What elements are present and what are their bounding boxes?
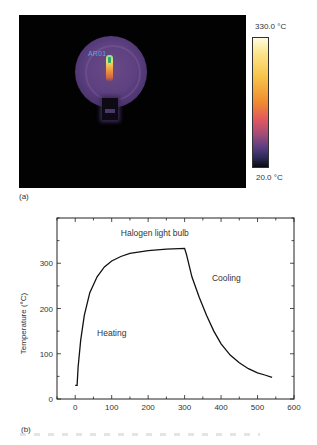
y-tick-label: 200 — [40, 305, 54, 314]
colorbar-max-label: 330.0 °C — [255, 22, 286, 31]
y-tick-label: 0 — [49, 395, 54, 404]
bulb-base-band — [105, 109, 115, 113]
cooling-annotation: Cooling — [212, 273, 241, 283]
chart-title: Halogen light bulb — [121, 228, 189, 238]
x-tick-label: 600 — [287, 403, 301, 410]
x-tick-label: 0 — [73, 403, 78, 410]
x-tick-label: 300 — [178, 403, 192, 410]
roi-label: AR01 — [88, 50, 106, 57]
x-tick-label: 200 — [141, 403, 155, 410]
heating-annotation: Heating — [97, 328, 127, 338]
y-tick-label: 100 — [40, 350, 54, 359]
y-axis-title: Temperature (°C) — [19, 292, 28, 354]
filament-core — [108, 57, 111, 63]
x-tick-label: 500 — [251, 403, 265, 410]
clipped-caption — [20, 433, 260, 436]
colorbar — [252, 37, 269, 168]
thermal-image: AR01 — [19, 15, 246, 188]
y-tick-label: 300 — [40, 259, 54, 268]
temperature-curve — [75, 248, 272, 385]
panel-a-label: (a) — [19, 192, 29, 201]
x-tick-label: 400 — [214, 403, 228, 410]
colorbar-min-label: 20.0 °C — [256, 173, 283, 182]
temperature-chart: 01002003004005006000100200300 Halogen li… — [0, 210, 317, 410]
x-tick-label: 100 — [105, 403, 119, 410]
chart-axes: 01002003004005006000100200300 — [40, 218, 302, 410]
